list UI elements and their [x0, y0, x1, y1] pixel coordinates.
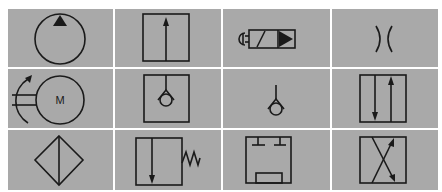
cell-check-valve-envelope	[115, 69, 221, 128]
cell-spring-return-valve	[115, 130, 221, 190]
cell-pump	[8, 9, 113, 67]
filter-icon	[8, 130, 113, 190]
cell-motor: M	[8, 69, 113, 128]
symbol-grid: M	[8, 9, 436, 190]
motor-label: M	[55, 94, 64, 106]
restrictor-icon	[332, 9, 438, 67]
check-valve-icon	[223, 69, 330, 128]
cell-blocked-ports-valve	[223, 130, 330, 190]
electric-motor-icon: M	[8, 69, 113, 128]
single-flow-valve-icon	[115, 9, 221, 67]
solenoid-valve-icon	[223, 9, 330, 67]
check-valve-envelope-icon	[115, 69, 221, 128]
cell-filter	[8, 130, 113, 190]
cell-solenoid-valve	[223, 9, 330, 67]
cell-check-valve	[223, 69, 330, 128]
crossed-flow-valve-icon	[332, 130, 438, 190]
cell-single-flow-valve	[115, 9, 221, 67]
cell-restrictor	[332, 9, 438, 67]
cell-two-flow-valve	[332, 69, 438, 128]
spring-return-valve-icon	[115, 130, 221, 190]
pump-icon	[8, 9, 113, 67]
blocked-ports-valve-icon	[223, 130, 330, 190]
two-flow-valve-icon	[332, 69, 438, 128]
cell-crossed-flow-valve	[332, 130, 438, 190]
